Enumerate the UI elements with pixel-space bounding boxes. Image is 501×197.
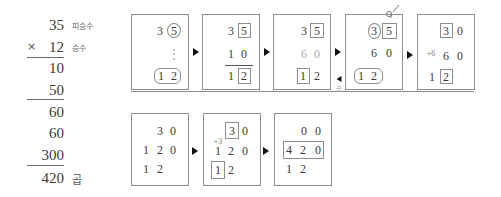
partial-row: 60	[18, 104, 64, 120]
multiplication-diagram: 35 피승수 × 12 승수 10 50 60 60 300 420 곱 3 5…	[0, 0, 501, 197]
partial-row: 60	[18, 125, 64, 141]
multiplicand: 35	[18, 17, 64, 33]
digit: 1	[358, 70, 364, 82]
digit: 5	[171, 25, 177, 37]
partial-row: 300	[18, 147, 64, 163]
digit: 0	[170, 125, 176, 137]
digit: 3	[443, 25, 449, 37]
digit: 0	[242, 125, 248, 137]
step-box-8: 0 0 4 2 0 1 2	[274, 113, 332, 186]
digit: 1	[429, 71, 435, 83]
digit: 2	[443, 71, 449, 83]
digit: 5	[314, 25, 320, 37]
carry-mark-icon	[382, 3, 402, 19]
arrow-right-icon	[335, 48, 341, 56]
digit: 0	[242, 145, 248, 157]
divider-line	[27, 57, 64, 58]
digit: 0	[301, 125, 307, 137]
sum-line	[225, 65, 253, 66]
digit: 2	[300, 144, 306, 156]
arrow-left-icon	[337, 76, 342, 82]
digit: 3	[301, 25, 307, 37]
digit: 0	[386, 47, 392, 59]
digit: 6	[301, 48, 307, 60]
digit: 3	[157, 125, 163, 137]
digit: 1	[215, 145, 221, 157]
digit: 4	[286, 144, 292, 156]
multiplier-label: 승수	[72, 42, 86, 53]
digit: 2	[300, 163, 306, 175]
digit: 1	[228, 48, 234, 60]
partial-row: 10	[18, 60, 64, 76]
divider-line	[27, 165, 64, 166]
digit: 1	[143, 163, 149, 175]
step-box-2: 3 5 1 0 1 2	[202, 14, 260, 90]
digit: 1	[215, 164, 221, 176]
digit: 2	[228, 145, 234, 157]
digit: 1	[143, 144, 149, 156]
step-box-4: 3 5 6 0 1 2	[345, 14, 403, 90]
digit: 3	[371, 25, 377, 37]
step-box-5: 3 0 +6 6 0 1 2	[417, 14, 475, 90]
step-box-7: 3 0 +3 1 2 0 1 2	[203, 113, 261, 186]
digit: 6	[443, 50, 449, 62]
digit: 1	[158, 70, 164, 82]
digit: 2	[314, 70, 320, 82]
vertical-dots-icon: ⋮	[168, 48, 180, 60]
digit: 3	[157, 25, 163, 37]
digit: 3	[228, 25, 234, 37]
arrow-right-icon	[264, 48, 270, 56]
arrow-right-icon	[263, 147, 269, 155]
back-arrow-label: 곱	[336, 84, 342, 93]
product: 420	[18, 170, 64, 186]
divider-line	[27, 99, 64, 100]
digit: 2	[157, 144, 163, 156]
top-row-baseline	[131, 91, 474, 92]
digit: 0	[314, 48, 320, 60]
digit: 0	[315, 125, 321, 137]
digit: 1	[286, 163, 292, 175]
digit: 2	[228, 164, 234, 176]
digit: 2	[371, 70, 377, 82]
digit: 0	[315, 144, 321, 156]
digit: 2	[157, 163, 163, 175]
digit: 1	[300, 70, 306, 82]
digit: 0	[241, 48, 247, 60]
digit: 1	[228, 70, 234, 82]
digit: 3	[229, 125, 235, 137]
step-box-6: 3 0 1 2 0 1 2	[131, 113, 189, 186]
step-box-3: 3 5 6 0 1 2	[273, 14, 331, 90]
digit: 2	[241, 70, 247, 82]
digit: 6	[371, 47, 377, 59]
multiplicand-label: 피승수	[72, 20, 93, 31]
digit: 5	[241, 25, 247, 37]
step-box-1: 3 5 ⋮ 1 2	[131, 14, 189, 90]
multiplier: 12	[18, 39, 64, 55]
carry-value: +6	[427, 48, 436, 60]
digit: 0	[457, 25, 463, 37]
partial-row: 50	[18, 82, 64, 98]
digit: 0	[457, 50, 463, 62]
digit: 5	[386, 25, 392, 37]
arrow-right-icon	[407, 51, 413, 59]
product-label: 곱	[72, 171, 82, 187]
digit: 2	[171, 70, 177, 82]
digit: 0	[170, 144, 176, 156]
arrow-right-icon	[192, 147, 198, 155]
arrow-right-icon	[193, 48, 199, 56]
